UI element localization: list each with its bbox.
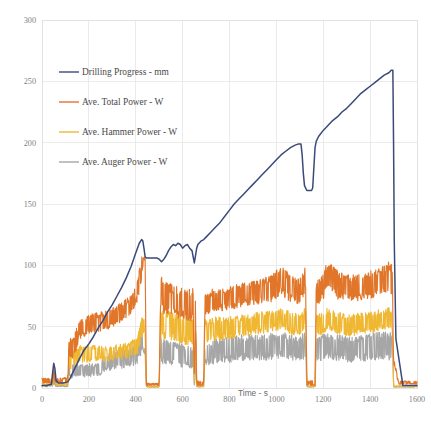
y-tick-label: 250 <box>24 77 36 86</box>
chart-canvas: 050100150200250300 020040060080010001200… <box>0 0 431 429</box>
x-axis-tick-labels: 02004006008001000120014001600 <box>40 395 425 404</box>
chart-container: 050100150200250300 020040060080010001200… <box>0 0 431 429</box>
x-tick-label: 1200 <box>315 395 331 404</box>
x-axis-title: Time - s <box>238 388 268 398</box>
legend-label: Ave. Total Power - W <box>82 97 164 107</box>
chart-legend: Drilling Progress - mmAve. Total Power -… <box>59 67 177 167</box>
x-tick-label: 1000 <box>268 395 284 404</box>
x-tick-label: 600 <box>176 395 188 404</box>
x-tick-label: 0 <box>40 395 44 404</box>
x-tick-label: 800 <box>223 395 235 404</box>
x-tick-label: 200 <box>83 395 95 404</box>
y-tick-label: 50 <box>28 323 36 332</box>
legend-label: Ave. Hammer Power - W <box>82 127 177 137</box>
y-tick-label: 0 <box>32 384 36 393</box>
y-tick-label: 200 <box>24 139 36 148</box>
x-tick-label: 1400 <box>362 395 378 404</box>
y-axis-tick-labels: 050100150200250300 <box>24 16 36 393</box>
legend-label: Ave. Auger Power - W <box>82 157 167 167</box>
x-tick-label: 400 <box>130 395 142 404</box>
y-tick-label: 150 <box>24 200 36 209</box>
y-tick-label: 100 <box>24 261 36 270</box>
x-tick-label: 1600 <box>409 395 425 404</box>
y-tick-label: 300 <box>24 16 36 25</box>
x-axis-title-label: Time - s <box>238 388 268 398</box>
legend-label: Drilling Progress - mm <box>82 67 169 77</box>
